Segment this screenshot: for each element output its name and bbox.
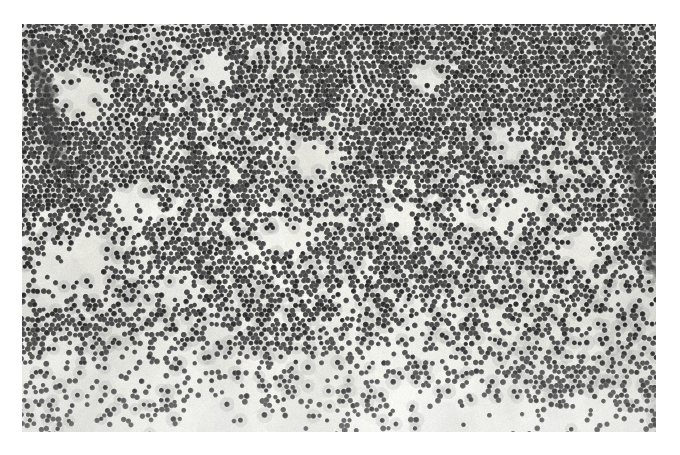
page-margin-bottom <box>0 432 680 455</box>
micrograph-image <box>22 24 656 432</box>
micrograph-page <box>0 0 680 455</box>
page-margin-left <box>0 0 22 455</box>
micrograph-canvas <box>22 24 656 432</box>
page-margin-top <box>0 0 680 24</box>
page-margin-right <box>656 0 680 455</box>
